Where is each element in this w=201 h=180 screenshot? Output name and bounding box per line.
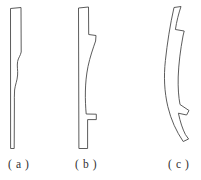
caption-a: ( a ) [8,155,30,173]
specimen-shape-c [164,7,189,142]
caption-row: ( a ) ( b ) ( c ) [0,155,201,175]
specimen-diagram [0,0,201,180]
caption-c: ( c ) [168,155,190,173]
specimen-shape-a [11,8,22,149]
caption-b: ( b ) [75,155,97,173]
specimen-shape-b [79,7,97,149]
figure-panel: ( a ) ( b ) ( c ) [0,0,201,180]
